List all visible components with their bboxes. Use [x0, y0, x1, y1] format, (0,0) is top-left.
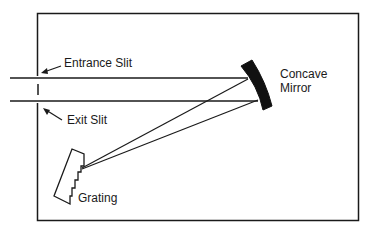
- entrance-slit-label: Entrance Slit: [64, 57, 132, 70]
- mirror-label-line2: Mirror: [280, 82, 311, 95]
- exit-slit-label: Exit Slit: [67, 114, 107, 127]
- mirror-to-grating-beam-lower: [82, 100, 258, 169]
- grating-label: Grating: [78, 192, 117, 205]
- entrance-arrowhead-icon: [41, 68, 48, 74]
- diagram-canvas: [0, 0, 368, 234]
- mirror-label-line1: Concave: [280, 68, 327, 81]
- concave-mirror-icon: [241, 60, 272, 110]
- exit-arrowhead-icon: [43, 108, 50, 115]
- monochromator-diagram: Entrance Slit Exit Slit Concave Mirror G…: [0, 0, 368, 234]
